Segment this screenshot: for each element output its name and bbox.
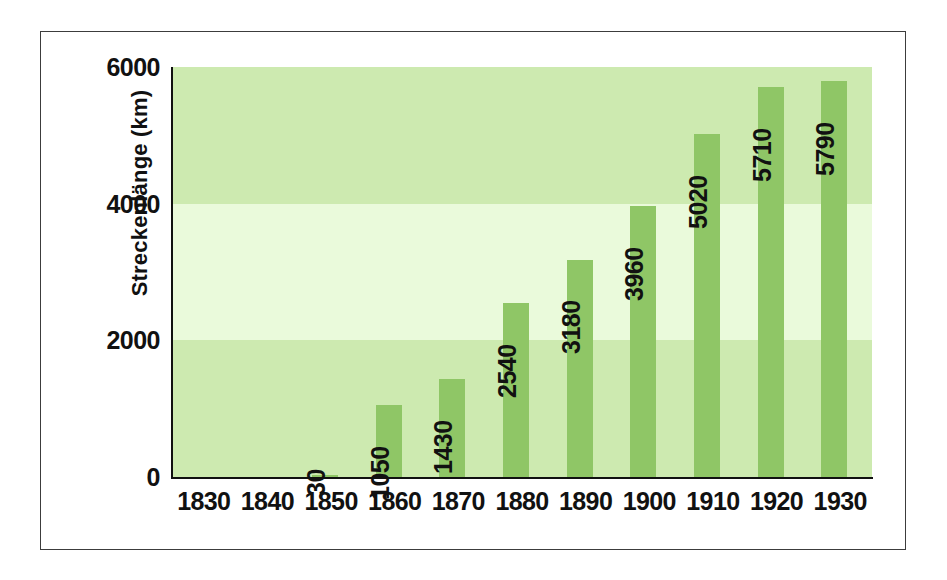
- x-tick-1920: 1920: [745, 487, 809, 516]
- x-tick-1830: 1830: [172, 487, 236, 516]
- bar-value-1930: 5790: [811, 122, 840, 176]
- x-tick-1840: 1840: [236, 487, 300, 516]
- bar-1890: [567, 260, 593, 477]
- bar-value-1910: 5020: [684, 175, 713, 229]
- bar-value-1880: 2540: [493, 344, 522, 398]
- x-tick-1930: 1930: [808, 487, 872, 516]
- y-axis-title: Streckenlänge (km): [127, 33, 153, 353]
- x-tick-1880: 1880: [490, 487, 554, 516]
- x-tick-1910: 1910: [681, 487, 745, 516]
- chart-figure: 30 1050 1430 2540 3180 3960 5020 5710 57…: [0, 0, 947, 580]
- x-axis-line: [171, 477, 873, 479]
- y-axis-line: [171, 67, 173, 478]
- plot-area: 30 1050 1430 2540 3180 3960 5020 5710 57…: [172, 67, 872, 477]
- x-tick-1870: 1870: [427, 487, 491, 516]
- y-tick-0: 0: [0, 463, 160, 492]
- bar-value-1890: 3180: [557, 300, 586, 354]
- bar-value-1870: 1430: [429, 420, 458, 474]
- x-tick-1900: 1900: [618, 487, 682, 516]
- bar-value-1900: 3960: [620, 247, 649, 301]
- x-tick-1860: 1860: [363, 487, 427, 516]
- bar-value-1920: 5710: [748, 128, 777, 182]
- x-tick-1890: 1890: [554, 487, 618, 516]
- x-tick-1850: 1850: [299, 487, 363, 516]
